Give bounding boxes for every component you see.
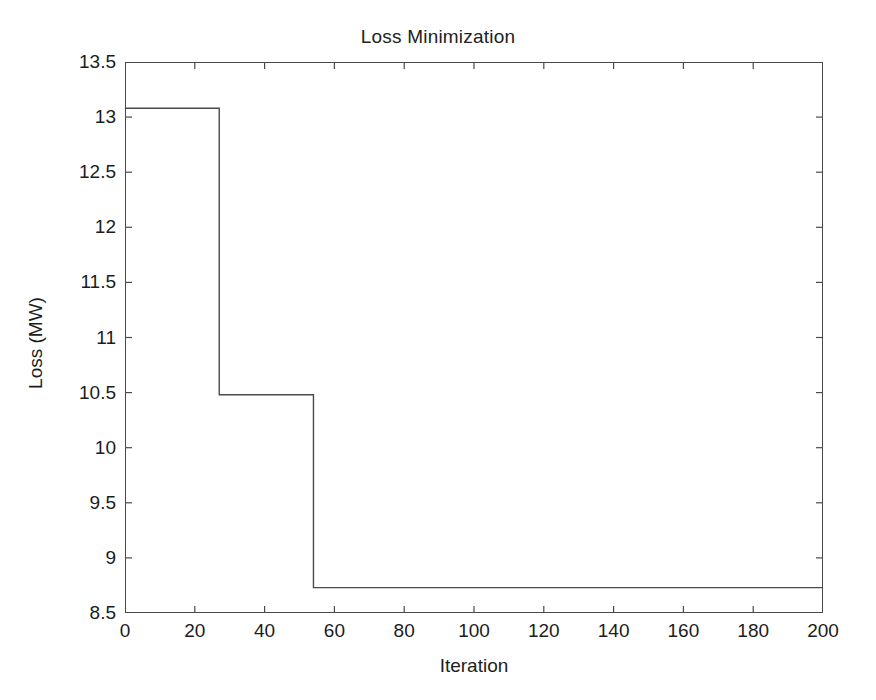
y-tick-label: 11.5 bbox=[80, 271, 116, 293]
y-tick-label: 9.5 bbox=[90, 492, 116, 514]
chart-title: Loss Minimization bbox=[0, 26, 876, 48]
x-axis-tick-labels: 020406080100120140160180200 bbox=[125, 620, 823, 650]
figure-canvas: Loss Minimization Loss (MW) 8.599.51010.… bbox=[0, 0, 876, 700]
y-tick-label: 12.5 bbox=[79, 161, 116, 183]
x-tick-label: 40 bbox=[254, 620, 275, 642]
loss-step-line bbox=[125, 108, 823, 587]
y-tick-label: 12 bbox=[95, 216, 116, 238]
x-tick-label: 80 bbox=[394, 620, 415, 642]
y-tick-label: 13.5 bbox=[79, 51, 116, 73]
data-plot bbox=[125, 62, 823, 613]
x-tick-label: 140 bbox=[598, 620, 630, 642]
x-tick-label: 120 bbox=[528, 620, 560, 642]
x-tick-label: 20 bbox=[184, 620, 205, 642]
x-tick-label: 60 bbox=[324, 620, 345, 642]
y-tick-label: 10.5 bbox=[79, 382, 116, 404]
x-tick-label: 200 bbox=[807, 620, 839, 642]
y-tick-label: 13 bbox=[95, 106, 116, 128]
x-tick-label: 100 bbox=[458, 620, 490, 642]
x-tick-label: 160 bbox=[668, 620, 700, 642]
y-tick-label: 11 bbox=[96, 327, 116, 349]
x-tick-label: 180 bbox=[737, 620, 769, 642]
axis-tick-marks bbox=[125, 62, 823, 613]
y-tick-label: 10 bbox=[95, 437, 116, 459]
y-tick-label: 9 bbox=[105, 547, 116, 569]
x-axis-label: Iteration bbox=[125, 655, 823, 677]
plot-area bbox=[125, 62, 823, 613]
y-tick-label: 8.5 bbox=[90, 602, 116, 624]
y-axis-tick-labels: 8.599.51010.51111.51212.51313.5 bbox=[0, 62, 116, 613]
x-tick-label: 0 bbox=[120, 620, 131, 642]
